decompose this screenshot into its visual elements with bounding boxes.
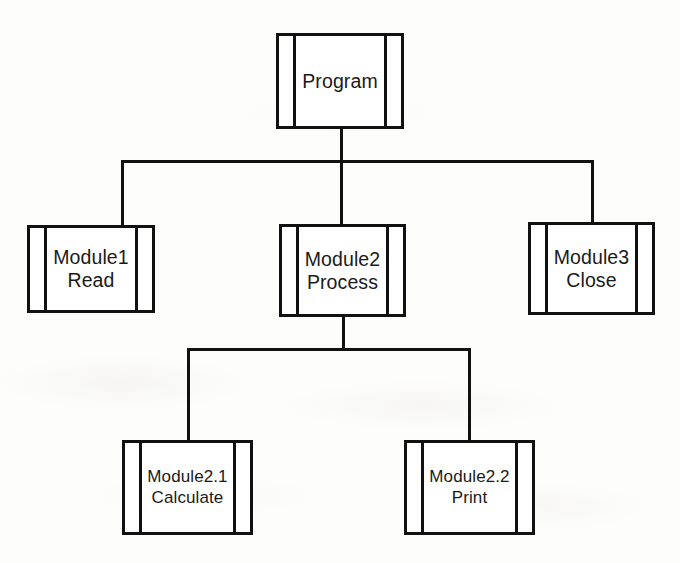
module-label-module2: Module2 Process <box>305 248 381 294</box>
module-box-module1[interactable]: Module1 Read <box>27 225 155 313</box>
module-box-module2[interactable]: Module2 Process <box>279 224 406 317</box>
structure-chart-diagram: Program Module1 Read Module2 Process Mod… <box>0 0 680 563</box>
module-right-rule <box>233 443 236 532</box>
module-label-module21: Module2.1 Calculate <box>147 467 227 507</box>
module-left-rule <box>44 228 47 310</box>
module-left-rule <box>293 36 296 126</box>
connector-drop-module1 <box>121 160 124 225</box>
module-right-rule <box>135 228 138 310</box>
module-box-program[interactable]: Program <box>276 33 404 129</box>
module-left-rule <box>421 443 424 532</box>
connector-program-stem <box>340 129 343 161</box>
module-right-rule <box>635 225 638 312</box>
module-right-rule <box>384 36 387 126</box>
connector-drop-module2 <box>340 160 343 224</box>
module-right-rule <box>386 227 389 314</box>
module-box-module3[interactable]: Module3 Close <box>528 222 655 315</box>
module-label-module1: Module1 Read <box>53 246 129 292</box>
module-box-module21[interactable]: Module2.1 Calculate <box>122 440 253 535</box>
connector-level3-bus <box>187 348 468 351</box>
connector-drop-module22 <box>468 348 471 441</box>
module-left-rule <box>139 443 142 532</box>
connector-drop-module21 <box>187 348 190 441</box>
connector-level2-bus <box>121 160 591 163</box>
module-left-rule <box>296 227 299 314</box>
module-label-module22: Module2.2 Print <box>429 467 509 507</box>
module-label-program: Program <box>302 70 377 93</box>
module-box-module22[interactable]: Module2.2 Print <box>404 440 535 535</box>
module-label-module3: Module3 Close <box>554 246 630 292</box>
module-right-rule <box>515 443 518 532</box>
connector-module2-stem <box>342 317 345 351</box>
module-left-rule <box>545 225 548 312</box>
connector-drop-module3 <box>591 160 594 222</box>
